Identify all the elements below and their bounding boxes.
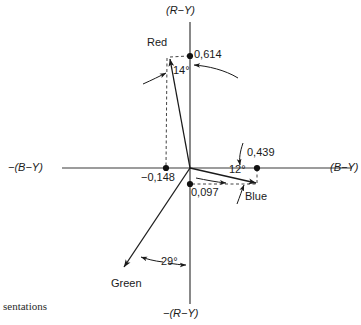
blue-angle-label: 12° (229, 164, 246, 175)
blue-vector (190, 168, 256, 183)
axis-label-top: (R−Y) (166, 5, 195, 16)
red-horizontal-projection-line (170, 56, 188, 57)
green-angle-label: 29° (161, 256, 178, 267)
red-by-value-label: −0,148 (141, 172, 175, 183)
blue-angle-leader-lower (237, 185, 244, 204)
axis-label-right: (B−Y) (330, 162, 358, 173)
blue-vector-label: Blue (245, 191, 267, 202)
green-angle-leader-left (141, 257, 163, 262)
red-vertical-projection-line (166, 58, 167, 167)
red-angle-leader-left (143, 73, 166, 84)
axis-label-left: −(B−Y) (8, 162, 43, 173)
red-ry-projection-dot (187, 53, 193, 59)
axes-group (62, 22, 352, 304)
green-vector-label: Green (111, 278, 142, 289)
red-angle-label: 14° (173, 65, 190, 76)
red-angle-leader-right (194, 65, 238, 78)
blue-by-projection-dot (254, 165, 260, 171)
blue-angle-leader-left (196, 178, 226, 183)
blue-ry-value-label: 0,097 (191, 187, 219, 198)
vector-diagram-canvas (0, 0, 361, 325)
page-caption-fragment: sentations (3, 300, 47, 312)
blue-by-value-label: 0,439 (247, 147, 275, 158)
red-ry-value-label: 0,614 (194, 49, 222, 60)
red-vector-label: Red (147, 37, 167, 48)
blue-angle-leader-upper (240, 143, 243, 165)
axis-label-bottom: −(R−Y) (163, 308, 198, 319)
